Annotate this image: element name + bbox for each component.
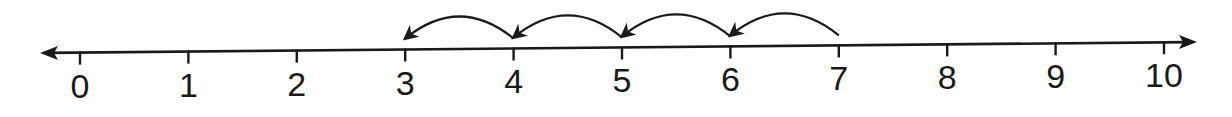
jump-arrow (622, 14, 730, 36)
jump-arrow (514, 15, 622, 37)
jump-arrow (405, 17, 513, 39)
tick-label: 4 (504, 62, 523, 100)
tick-label: 10 (1145, 56, 1183, 94)
tick-label: 1 (179, 66, 198, 104)
number-line-axis (40, 35, 1197, 60)
tick-label: 6 (721, 60, 740, 98)
jump-arrows (405, 13, 839, 38)
jump-arrow (730, 13, 838, 35)
tick-label: 7 (829, 59, 848, 97)
tick-label: 3 (396, 64, 415, 102)
axis-line (48, 42, 1188, 53)
tick-labels: 012345678910 (71, 56, 1183, 104)
tick-label: 8 (938, 58, 957, 96)
tick-label: 2 (287, 65, 306, 103)
tick-label: 9 (1046, 57, 1065, 95)
number-line-canvas: 012345678910 (0, 0, 1232, 117)
tick-label: 0 (71, 67, 90, 105)
number-line-diagram: 012345678910 (0, 0, 1232, 117)
tick-label: 5 (613, 61, 632, 99)
